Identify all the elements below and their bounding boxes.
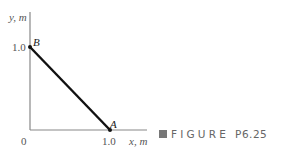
point-b-label: B [33, 37, 40, 48]
figure-caption: FIGUREP6.25 [159, 129, 267, 140]
caption-number: P6.25 [235, 128, 267, 140]
x-tick-label: 1.0 [102, 136, 116, 147]
point-a-label: A [110, 119, 117, 130]
origin-label: 0 [21, 136, 27, 147]
segment-ab [30, 47, 110, 130]
point-b-marker [28, 45, 32, 49]
y-axis-label: y, m [9, 12, 27, 23]
x-axis-label: x, m [129, 136, 147, 147]
caption-square-icon [159, 130, 167, 138]
y-tick-label: 1.0 [12, 42, 26, 53]
caption-label: FIGURE [171, 128, 229, 140]
